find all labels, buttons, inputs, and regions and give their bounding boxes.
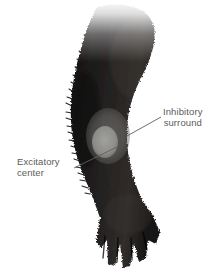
annotation-label-excitatory-line2: center <box>17 167 60 178</box>
upper-arm-fade <box>60 0 180 62</box>
arm-illustration <box>0 0 224 276</box>
annotation-label-inhibitory: Inhibitory surround <box>163 106 203 128</box>
figure-container: Inhibitory surround Excitatory center <box>0 0 224 276</box>
annotation-label-excitatory: Excitatory center <box>17 156 60 178</box>
annotation-label-inhibitory-line2: surround <box>163 117 203 128</box>
leader-line-inhibitory <box>127 117 161 136</box>
annotation-label-inhibitory-line1: Inhibitory <box>163 106 203 117</box>
receptive-field-overlay <box>86 108 130 164</box>
annotation-label-excitatory-line1: Excitatory <box>17 156 60 167</box>
